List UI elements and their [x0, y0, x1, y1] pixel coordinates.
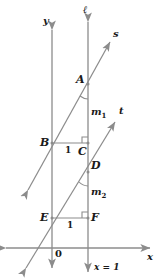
x-axis-label: x: [147, 252, 153, 262]
point-B-label: B: [40, 137, 49, 148]
point-D-label: D: [91, 160, 101, 171]
point-A-label: A: [76, 74, 85, 85]
point-D-marker: [87, 171, 90, 174]
slope-m1-base: m: [91, 106, 102, 117]
point-F-label: F: [91, 212, 99, 223]
geometry-figure: ℓ s t y x 0 x = 1 A B C D E F 1 1 m1 m2: [0, 0, 162, 280]
angle-arc-A: [80, 96, 88, 99]
y-axis-label: y: [43, 16, 49, 26]
run-upper-label: 1: [65, 146, 71, 155]
slope-m2-base: m: [91, 186, 102, 197]
triangle-lower-EFD: [52, 182, 88, 218]
line-t-label: t: [119, 106, 124, 116]
origin-label: 0: [55, 249, 62, 259]
point-E-marker: [51, 217, 54, 220]
point-F-marker: [87, 217, 90, 220]
point-A-marker: [87, 83, 90, 86]
angle-arc-D: [79, 182, 88, 186]
slope-m1-subscript: 1: [102, 111, 107, 120]
slope-m2-subscript: 2: [102, 191, 107, 200]
slope-m2-label: m2: [91, 187, 106, 199]
figure-canvas: [0, 0, 162, 280]
slope-m1-label: m1: [91, 107, 106, 119]
point-E-label: E: [40, 212, 48, 223]
point-B-marker: [51, 142, 54, 145]
run-lower-label: 1: [67, 221, 73, 230]
vertical-line-equation-label: x = 1: [94, 263, 119, 272]
point-C-label: C: [78, 146, 87, 157]
line-ell-label: ℓ: [83, 5, 87, 15]
line-s-label: s: [113, 29, 119, 39]
